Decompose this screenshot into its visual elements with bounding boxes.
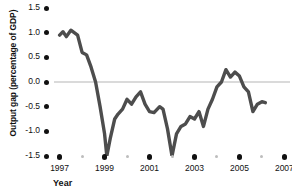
y-tick-label: 1.5 bbox=[14, 3, 40, 12]
x-tick-dot-minor bbox=[215, 155, 218, 158]
y-tick-dot bbox=[44, 55, 49, 60]
x-tick-label: 2005 bbox=[222, 164, 256, 173]
x-tick-label: 2001 bbox=[133, 164, 167, 173]
y-tick-dot bbox=[44, 104, 49, 109]
x-tick-dot-major bbox=[102, 154, 108, 160]
y-tick-dot bbox=[44, 129, 49, 134]
x-tick-dot-minor bbox=[81, 155, 84, 158]
plot-area bbox=[54, 8, 290, 156]
y-tick-label: -1.0 bbox=[14, 126, 40, 135]
x-tick-label: 2003 bbox=[177, 164, 211, 173]
y-tick-label: 0.0 bbox=[14, 77, 40, 86]
x-tick-dot-major bbox=[282, 154, 288, 160]
x-tick-dot-minor bbox=[260, 155, 263, 158]
x-tick-dot-major bbox=[147, 154, 153, 160]
x-tick-label: 2007 bbox=[267, 164, 292, 173]
x-tick-dot-minor bbox=[126, 155, 129, 158]
y-tick-dot bbox=[44, 30, 49, 35]
x-tick-dot-major bbox=[237, 154, 243, 160]
y-tick-label: 1.0 bbox=[14, 28, 40, 37]
y-tick-dot bbox=[44, 80, 49, 85]
x-tick-label: 1997 bbox=[43, 164, 77, 173]
x-tick-label-group: 199719992001200320052007 bbox=[0, 164, 292, 178]
output-gap-line bbox=[60, 30, 266, 156]
y-tick-label: 0.5 bbox=[14, 52, 40, 61]
y-tick-dot bbox=[44, 6, 49, 11]
x-tick-label: 1999 bbox=[88, 164, 122, 173]
output-gap-chart: Output gap (percentage of GDP) 1.51.00.5… bbox=[0, 0, 292, 196]
y-tick-label: -0.5 bbox=[14, 102, 40, 111]
x-axis-title: Year bbox=[53, 178, 72, 188]
line-chart-svg bbox=[54, 8, 290, 156]
x-tick-dot-major bbox=[57, 154, 63, 160]
x-tick-dot-minor bbox=[171, 155, 174, 158]
x-tick-dot-major bbox=[192, 154, 198, 160]
